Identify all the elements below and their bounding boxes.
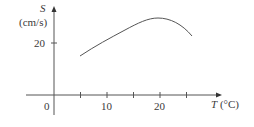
x-axis-label: T (°C): [211, 99, 239, 110]
x-axis-unit: (°C): [220, 98, 239, 110]
x-axis-arrow-icon: [216, 93, 222, 98]
origin-label: 0: [44, 101, 50, 112]
x-tick-label-10: 10: [101, 101, 112, 112]
x-axis-variable: T: [211, 98, 217, 110]
y-axis-unit: (cm/s): [19, 17, 47, 28]
data-curve: [80, 18, 192, 56]
x-tick-label-20: 20: [154, 101, 165, 112]
y-axis-variable: S: [40, 3, 46, 14]
y-axis-arrow-icon: [52, 6, 57, 12]
y-tick-label-20: 20: [34, 38, 45, 49]
